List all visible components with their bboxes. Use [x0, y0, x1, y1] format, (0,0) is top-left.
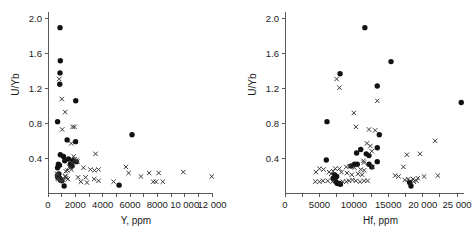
data-point-cross	[96, 167, 100, 171]
data-point-cross	[405, 153, 409, 157]
data-point-filled	[408, 183, 413, 188]
x-axis-title: Y, ppm	[121, 215, 151, 226]
data-point-cross	[365, 179, 369, 183]
data-point-cross	[321, 167, 325, 171]
data-point-cross	[433, 139, 437, 143]
data-point-filled	[358, 147, 363, 152]
data-point-cross	[210, 174, 214, 178]
data-point-cross	[126, 171, 130, 175]
x-tick-label: 8000	[147, 199, 168, 210]
data-point-cross	[337, 86, 341, 90]
data-point-cross	[88, 167, 92, 171]
data-point-cross	[81, 166, 85, 170]
data-point-cross	[124, 165, 128, 169]
data-point-cross	[69, 141, 73, 145]
data-point-filled	[377, 132, 382, 137]
data-point-cross	[356, 172, 360, 176]
y-tick-label: 1.2	[29, 83, 42, 94]
scatter-figure: 0.40.81.21.62.00200040006000800010 00012…	[0, 0, 476, 245]
x-tick-label: 4000	[92, 199, 113, 210]
data-point-cross	[83, 175, 87, 179]
x-tick-label: 10000	[341, 199, 367, 210]
data-point-cross	[352, 111, 356, 115]
y-tick-label: 0.8	[266, 118, 279, 129]
x-tick-label: 2000	[65, 199, 86, 210]
data-point-filled	[324, 119, 329, 124]
data-point-cross	[57, 77, 61, 81]
data-point-filled	[129, 132, 134, 137]
chart-panel-left: 0.40.81.21.62.00200040006000800010 00012…	[0, 0, 238, 245]
data-point-cross	[354, 179, 358, 183]
data-point-cross	[85, 180, 89, 184]
data-point-cross	[362, 168, 366, 172]
data-point-cross	[325, 179, 329, 183]
data-point-cross	[401, 165, 405, 169]
data-point-cross	[375, 99, 379, 103]
data-point-cross	[365, 141, 369, 145]
data-point-cross	[154, 179, 158, 183]
data-point-filled	[58, 58, 63, 63]
data-point-filled	[57, 70, 62, 75]
data-point-cross	[139, 174, 143, 178]
y-tick-label: 0.4	[266, 153, 279, 164]
data-point-cross	[321, 179, 325, 183]
data-point-filled	[57, 25, 62, 30]
data-point-filled	[354, 150, 359, 155]
data-point-filled	[55, 165, 60, 170]
data-point-cross	[92, 177, 96, 181]
data-point-cross	[60, 127, 64, 131]
y-tick-label: 2.0	[266, 13, 279, 24]
y-tick-label: 1.6	[29, 48, 42, 59]
data-point-filled	[375, 83, 380, 88]
data-point-cross	[147, 171, 151, 175]
data-point-cross	[418, 152, 422, 156]
x-tick-label: 10 000	[170, 199, 199, 210]
data-point-cross	[314, 170, 318, 174]
data-point-cross	[93, 152, 97, 156]
series-crosses	[55, 77, 214, 185]
series-crosses	[313, 77, 440, 184]
data-point-cross	[313, 179, 317, 183]
data-point-filled	[61, 183, 66, 188]
data-point-filled	[73, 139, 78, 144]
y-tick-label: 0.8	[29, 118, 42, 129]
scatter-plot-y-ppm: 0.40.81.21.62.00200040006000800010 00012…	[0, 0, 238, 245]
data-point-cross	[96, 179, 100, 183]
data-point-cross	[367, 127, 371, 131]
data-point-cross	[92, 168, 96, 172]
series-filled-circles	[55, 25, 135, 189]
data-point-cross	[354, 125, 358, 129]
data-point-cross	[370, 149, 374, 153]
data-point-cross	[373, 128, 377, 132]
data-point-cross	[350, 173, 354, 177]
data-point-cross	[76, 175, 80, 179]
data-point-filled	[388, 59, 393, 64]
y-axis-title: U/Yb	[10, 73, 21, 96]
data-point-filled	[362, 25, 367, 30]
data-point-cross	[396, 174, 400, 178]
y-tick-label: 1.2	[266, 83, 279, 94]
data-point-cross	[161, 179, 165, 183]
data-point-filled	[375, 145, 380, 150]
data-point-cross	[111, 179, 115, 183]
x-tick-label: 25 000	[443, 199, 472, 210]
x-tick-label: 12 000	[197, 199, 226, 210]
y-tick-label: 2.0	[29, 13, 42, 24]
y-tick-label: 0.4	[29, 153, 42, 164]
chart-panel-right: 0.40.81.21.62.005000100001500020 00025 0…	[238, 0, 476, 245]
data-point-filled	[324, 157, 329, 162]
data-point-filled	[375, 159, 380, 164]
x-axis-title: Hf, ppm	[363, 215, 398, 226]
data-point-filled	[337, 71, 342, 76]
data-point-cross	[436, 173, 440, 177]
data-point-cross	[345, 171, 349, 175]
y-axis-title: U/Yb	[247, 73, 258, 96]
data-point-cross	[360, 173, 364, 177]
x-tick-label: 0	[45, 199, 50, 210]
data-point-cross	[181, 170, 185, 174]
data-point-cross	[403, 178, 407, 182]
x-tick-label: 15000	[375, 199, 401, 210]
data-point-filled	[57, 82, 62, 87]
scatter-plot-hf-ppm: 0.40.81.21.62.005000100001500020 00025 0…	[238, 0, 476, 245]
x-tick-label: 5000	[309, 199, 330, 210]
